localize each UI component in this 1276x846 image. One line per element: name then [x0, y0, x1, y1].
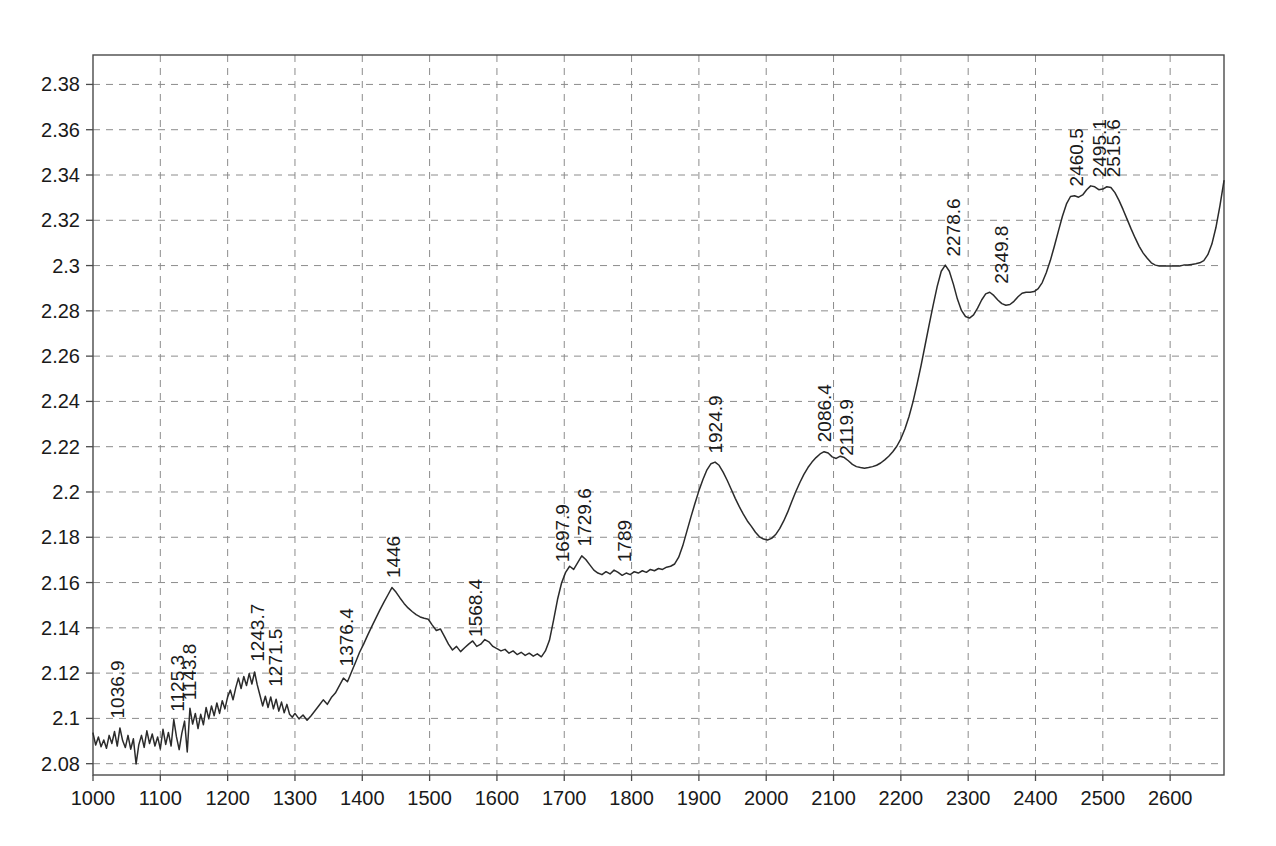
y-tick-label: 2.14	[41, 617, 80, 639]
x-tick-label: 1300	[273, 787, 318, 809]
y-tick-label: 2.12	[41, 662, 80, 684]
peak-label: 1036.9	[107, 660, 128, 718]
y-tick-label: 2.2	[52, 481, 80, 503]
peak-label: 2278.6	[943, 198, 964, 256]
x-tick-label: 1100	[139, 787, 182, 809]
y-tick-label: 2.08	[41, 753, 80, 775]
peak-label: 1143.8	[179, 644, 200, 701]
x-tick-label: 1700	[542, 787, 587, 809]
peak-label: 1271.5	[265, 629, 286, 687]
x-tick-label: 2100	[811, 787, 856, 809]
x-tick-label: 1000	[71, 787, 116, 809]
peak-label: 2460.5	[1066, 128, 1087, 186]
spectrum-figure: 1000110012001300140015001600170018001900…	[0, 0, 1276, 846]
peak-label: 2515.6	[1103, 119, 1124, 177]
peak-label: 2119.9	[836, 399, 857, 456]
peak-label: 2086.4	[814, 384, 835, 443]
x-tick-label: 2200	[879, 787, 924, 809]
y-tick-label: 2.34	[41, 164, 80, 186]
peak-label: 1729.6	[574, 488, 595, 546]
y-tick-label: 2.22	[41, 436, 80, 458]
x-tick-label: 2400	[1013, 787, 1058, 809]
spectrum-chart: 1000110012001300140015001600170018001900…	[0, 0, 1276, 846]
y-tick-label: 2.28	[41, 300, 80, 322]
y-tick-label: 2.24	[41, 390, 80, 412]
peak-label: 1376.4	[336, 608, 357, 667]
peak-label: 1697.9	[552, 504, 573, 562]
x-tick-label: 2000	[744, 787, 789, 809]
x-tick-label: 1800	[609, 787, 654, 809]
x-tick-label: 1400	[340, 787, 385, 809]
x-tick-label: 2500	[1081, 787, 1126, 809]
peak-label: 1789	[614, 520, 635, 562]
y-tick-label: 2.1	[52, 707, 80, 729]
x-tick-label: 1500	[407, 787, 452, 809]
y-tick-label: 2.3	[52, 255, 80, 277]
x-tick-label: 2600	[1148, 787, 1193, 809]
peak-label: 2349.8	[991, 226, 1012, 284]
x-tick-label: 1600	[475, 787, 520, 809]
y-tick-label: 2.16	[41, 572, 80, 594]
peak-label: 1924.9	[705, 395, 726, 453]
peak-label: 1568.4	[465, 578, 486, 637]
x-tick-label: 1200	[205, 787, 250, 809]
y-tick-label: 2.32	[41, 209, 80, 231]
y-tick-label: 2.36	[41, 119, 80, 141]
peak-label: 1446	[383, 536, 404, 578]
x-tick-label: 2300	[946, 787, 991, 809]
x-axis-tick-labels: 1000110012001300140015001600170018001900…	[71, 787, 1193, 809]
y-tick-label: 2.38	[41, 73, 80, 95]
y-tick-label: 2.26	[41, 345, 80, 367]
x-tick-label: 1900	[677, 787, 722, 809]
y-tick-label: 2.18	[41, 526, 80, 548]
